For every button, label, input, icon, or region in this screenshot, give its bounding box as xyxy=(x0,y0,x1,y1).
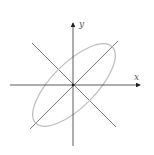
x-axis-label: x xyxy=(134,72,139,82)
y-axis-label: y xyxy=(78,19,85,29)
origin-point xyxy=(72,84,75,87)
diagram-canvas: y x xyxy=(0,0,154,155)
